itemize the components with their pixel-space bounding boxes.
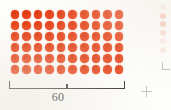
dot-cell	[55, 64, 67, 75]
array-dot	[11, 54, 20, 63]
registration-crop-mark-icon	[141, 86, 152, 97]
array-dot	[92, 10, 101, 19]
dot-cell	[102, 53, 114, 64]
bracket-tick-center	[66, 84, 67, 89]
partial-array-dot	[160, 4, 166, 10]
partial-array-dot	[160, 47, 166, 53]
array-dot	[68, 65, 77, 74]
array-dot	[11, 10, 20, 19]
dot-cell	[21, 20, 33, 31]
array-dot	[34, 32, 43, 41]
dot-cell	[21, 31, 33, 42]
array-dot	[57, 43, 66, 52]
dot-cell	[90, 31, 102, 42]
array-dot	[103, 32, 112, 41]
array-dot	[80, 10, 89, 19]
array-dot	[68, 43, 77, 52]
array-dot	[45, 54, 54, 63]
array-dot	[22, 10, 31, 19]
array-dot	[11, 32, 20, 41]
dot-cell	[44, 31, 56, 42]
dot-cell	[67, 42, 79, 53]
dot-cell	[102, 31, 114, 42]
dot-cell	[113, 53, 125, 64]
array-dot	[34, 10, 43, 19]
dot-cell	[32, 64, 44, 75]
dot-cell	[113, 31, 125, 42]
dot-cell	[79, 42, 91, 53]
dot-cell	[44, 53, 56, 64]
figure-page: 60	[0, 0, 171, 110]
dot-cell	[32, 9, 44, 20]
array-dot	[45, 21, 54, 30]
dot-cell	[32, 31, 44, 42]
dot-cell	[67, 64, 79, 75]
bracket-tick-right	[124, 81, 125, 89]
array-dot	[68, 54, 77, 63]
dot-cell	[21, 53, 33, 64]
dot-cell	[9, 9, 21, 20]
array-dot	[115, 43, 124, 52]
dot-cell	[113, 42, 125, 53]
partial-bracket-corner-icon	[162, 62, 170, 70]
array-dot	[92, 65, 101, 74]
array-dot	[22, 43, 31, 52]
array-dot	[80, 21, 89, 30]
array-dot	[34, 65, 43, 74]
array-dot	[115, 54, 124, 63]
dot-cell	[90, 53, 102, 64]
partial-array-dot	[160, 13, 166, 19]
array-dot	[80, 32, 89, 41]
array-dot	[57, 21, 66, 30]
dot-cell	[79, 53, 91, 64]
dot-cell	[113, 20, 125, 31]
partial-neighbouring-figure	[158, 4, 171, 66]
dot-cell	[67, 20, 79, 31]
array-dot	[103, 54, 112, 63]
dot-cell	[67, 9, 79, 20]
partial-array-dot	[160, 21, 166, 27]
array-dot	[34, 54, 43, 63]
array-dot	[11, 43, 20, 52]
array-dot	[92, 43, 101, 52]
measurement-bracket	[9, 80, 125, 89]
dot-cell	[9, 53, 21, 64]
array-dot	[45, 10, 54, 19]
array-dot	[68, 10, 77, 19]
array-dot	[103, 43, 112, 52]
dot-cell	[79, 20, 91, 31]
dot-cell	[32, 53, 44, 64]
dot-cell	[55, 20, 67, 31]
dot-cell	[55, 42, 67, 53]
array-dot	[57, 54, 66, 63]
dot-cell	[32, 42, 44, 53]
array-dot	[22, 65, 31, 74]
dot-cell	[21, 42, 33, 53]
array-dot	[103, 10, 112, 19]
array-dot	[45, 32, 54, 41]
array-dot	[80, 65, 89, 74]
dot-cell	[55, 31, 67, 42]
partial-array-dot	[160, 30, 166, 36]
dot-cell	[102, 20, 114, 31]
array-dot	[68, 21, 77, 30]
array-dot	[80, 54, 89, 63]
array-dot	[115, 21, 124, 30]
array-dot	[45, 65, 54, 74]
array-dot	[11, 21, 20, 30]
array-dot	[115, 10, 124, 19]
dot-cell	[79, 9, 91, 20]
dot-array-figure: 60	[0, 0, 135, 110]
array-dot	[92, 32, 101, 41]
dot-cell	[90, 64, 102, 75]
dot-cell	[44, 42, 56, 53]
array-dot	[34, 43, 43, 52]
dot-cell	[9, 20, 21, 31]
crop-mark-vertical-bar	[146, 86, 147, 97]
array-dot	[80, 43, 89, 52]
array-dot	[115, 32, 124, 41]
array-dot	[34, 21, 43, 30]
dot-cell	[67, 31, 79, 42]
dot-cell	[79, 31, 91, 42]
array-dot	[45, 43, 54, 52]
